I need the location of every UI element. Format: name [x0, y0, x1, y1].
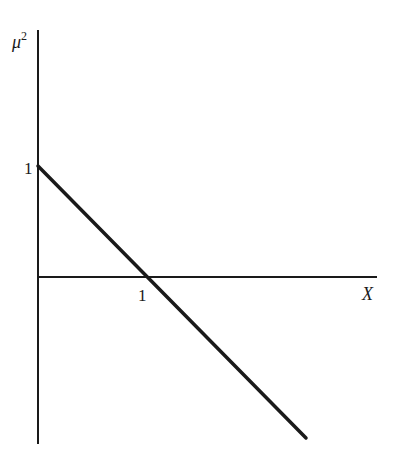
x-tick-label-1: 1 — [138, 286, 147, 305]
y-tick-label-1: 1 — [24, 159, 33, 178]
chart-canvas: μ2 1 1 X — [0, 0, 396, 464]
data-line — [38, 166, 306, 438]
x-axis-label: X — [361, 284, 374, 304]
y-axis-label: μ2 — [11, 29, 27, 52]
